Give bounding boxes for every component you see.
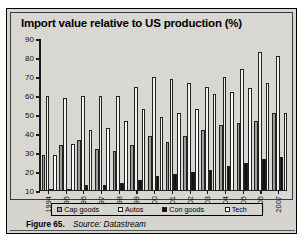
legend-swatch-icon: [162, 207, 167, 212]
bar-group: [59, 39, 74, 191]
chart-axes: 102030405060708090 199419951996199719981…: [39, 39, 287, 191]
bar-group: [130, 39, 145, 191]
bar: [134, 87, 138, 192]
bar-group: [254, 39, 269, 191]
bar: [81, 96, 85, 191]
figure-container: Import value relative to US production (…: [6, 8, 297, 234]
legend-item: Con goods: [157, 205, 210, 214]
legend-label: Cap goods: [64, 205, 99, 214]
x-axis-tick: [243, 190, 244, 194]
bar: [71, 144, 75, 192]
bar: [213, 94, 217, 191]
legend-item: Autos: [105, 205, 158, 214]
legend-item: Cap goods: [52, 205, 105, 214]
bar: [142, 109, 146, 191]
legend-label: Tech: [232, 205, 247, 214]
x-axis-tick: [154, 190, 155, 194]
x-axis-tick: [260, 190, 261, 194]
y-axis-tick-label: 50: [25, 111, 34, 120]
bar: [230, 92, 234, 191]
bar-group: [183, 39, 198, 191]
footer-divider: [10, 230, 295, 231]
bar-group: [113, 39, 128, 191]
bar: [53, 155, 57, 191]
y-axis-tick-label: 80: [25, 54, 34, 63]
bar: [248, 88, 252, 191]
y-axis-tick-label: 20: [25, 168, 34, 177]
bar: [99, 96, 103, 191]
bar-group: [95, 39, 110, 191]
bar: [266, 83, 270, 191]
legend-label: Con goods: [169, 205, 204, 214]
bar: [63, 98, 67, 191]
figure-label: Figure 65.: [26, 220, 65, 229]
bar: [106, 128, 110, 191]
chart-title: Import value relative to US production (…: [21, 17, 242, 29]
y-axis-tick-label: 30: [25, 149, 34, 158]
y-axis-tick-label: 40: [25, 130, 34, 139]
x-axis-tick: [225, 190, 226, 194]
y-axis-tick-label: 10: [25, 187, 34, 196]
bar-group: [201, 39, 216, 191]
y-axis-tick: [36, 96, 40, 98]
chart-plot-area: Import value relative to US production (…: [10, 12, 293, 200]
bar-group: [77, 39, 92, 191]
bar-group: [272, 39, 287, 191]
y-axis-tick: [36, 153, 40, 155]
x-axis-year-label: 2007: [274, 196, 283, 213]
x-axis-tick: [278, 190, 279, 194]
y-axis-tick: [36, 115, 40, 117]
x-axis-tick: [190, 190, 191, 194]
bar: [177, 113, 181, 191]
x-axis-tick: [101, 190, 102, 194]
y-axis-tick: [36, 191, 40, 193]
bar: [160, 117, 164, 191]
legend-label: Autos: [125, 205, 143, 214]
bar-group: [237, 39, 252, 191]
x-axis-tick: [172, 190, 173, 194]
bar-group: [148, 39, 163, 191]
y-axis-tick: [36, 134, 40, 136]
legend-swatch-icon: [57, 207, 62, 212]
y-axis-tick: [36, 58, 40, 60]
bar: [124, 121, 128, 191]
bar: [46, 96, 50, 191]
y-axis-tick-label: 90: [25, 35, 34, 44]
bar-group: [42, 39, 57, 191]
bar: [116, 96, 120, 191]
bar: [195, 109, 199, 191]
x-axis-tick: [119, 190, 120, 194]
y-axis-tick-label: 70: [25, 73, 34, 82]
y-axis-tick-label: 60: [25, 92, 34, 101]
x-axis-tick: [66, 190, 67, 194]
bar-group: [166, 39, 181, 191]
y-axis-tick: [36, 172, 40, 174]
bar: [152, 77, 156, 191]
bar: [284, 113, 288, 191]
x-axis-tick: [136, 190, 137, 194]
y-axis-tick: [36, 77, 40, 79]
legend-item: Tech: [210, 205, 263, 214]
x-axis-tick: [207, 190, 208, 194]
bar: [89, 130, 93, 191]
figure-source: Source: Datastream: [73, 220, 146, 229]
chart-legend: Cap goodsAutosCon goodsTech: [51, 203, 263, 216]
y-axis-tick: [36, 39, 40, 41]
x-axis-tick: [48, 190, 49, 194]
x-axis-tick: [83, 190, 84, 194]
bar-group: [219, 39, 234, 191]
legend-swatch-icon: [118, 207, 123, 212]
legend-swatch-icon: [225, 207, 230, 212]
